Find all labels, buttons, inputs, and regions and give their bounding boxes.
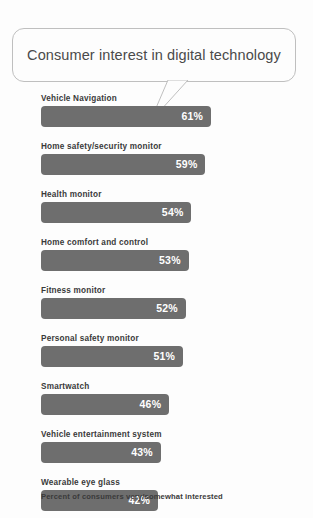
bar-category-label: Vehicle entertainment system: [41, 429, 313, 440]
bar-value-label: 53%: [159, 255, 181, 266]
bar-group: Vehicle Navigation61%: [0, 93, 313, 127]
bar-category-label: Personal safety monitor: [41, 333, 313, 344]
chart-title-bubble: Consumer interest in digital technology: [12, 28, 296, 82]
bar-value-label: 46%: [140, 399, 162, 410]
bar-group: Home safety/security monitor59%: [0, 141, 313, 175]
bar-category-label: Health monitor: [41, 189, 313, 200]
bar-group: Home comfort and control53%: [0, 237, 313, 271]
bar-fill[interactable]: 52%: [41, 298, 186, 319]
bar-track: 51%: [41, 346, 313, 367]
bar-group: Health monitor54%: [0, 189, 313, 223]
bar-category-label: Home comfort and control: [41, 237, 313, 248]
page-title: Consumer interest in digital technology: [27, 47, 281, 63]
bar-value-label: 54%: [162, 207, 184, 218]
bar-group: Fitness monitor52%: [0, 285, 313, 319]
bar-track: 46%: [41, 394, 313, 415]
bar-track: 52%: [41, 298, 313, 319]
bar-value-label: 43%: [131, 447, 153, 458]
bar-fill[interactable]: 59%: [41, 154, 205, 175]
chart-footnote: Percent of consumers very/somewhat inter…: [41, 492, 223, 501]
bar-fill[interactable]: 51%: [41, 346, 183, 367]
bar-fill[interactable]: 53%: [41, 250, 189, 271]
bar-track: 54%: [41, 202, 313, 223]
bar-track: 61%: [41, 106, 313, 127]
bar-chart: Vehicle Navigation61%Home safety/securit…: [0, 93, 313, 518]
bar-value-label: 61%: [181, 111, 203, 122]
bar-category-label: Wearable eye glass: [41, 477, 313, 488]
bar-fill[interactable]: 61%: [41, 106, 211, 127]
bar-fill[interactable]: 54%: [41, 202, 191, 223]
bar-category-label: Home safety/security monitor: [41, 141, 313, 152]
bar-fill[interactable]: 43%: [41, 442, 161, 463]
bar-group: Vehicle entertainment system43%: [0, 429, 313, 463]
bar-track: 59%: [41, 154, 313, 175]
bar-group: Personal safety monitor51%: [0, 333, 313, 367]
bar-category-label: Smartwatch: [41, 381, 313, 392]
bar-category-label: Fitness monitor: [41, 285, 313, 296]
bar-track: 53%: [41, 250, 313, 271]
bar-value-label: 52%: [156, 303, 178, 314]
bar-fill[interactable]: 46%: [41, 394, 169, 415]
bar-value-label: 59%: [176, 159, 198, 170]
bar-category-label: Vehicle Navigation: [41, 93, 313, 104]
bar-track: 43%: [41, 442, 313, 463]
bar-value-label: 51%: [154, 351, 176, 362]
bar-group: Smartwatch46%: [0, 381, 313, 415]
